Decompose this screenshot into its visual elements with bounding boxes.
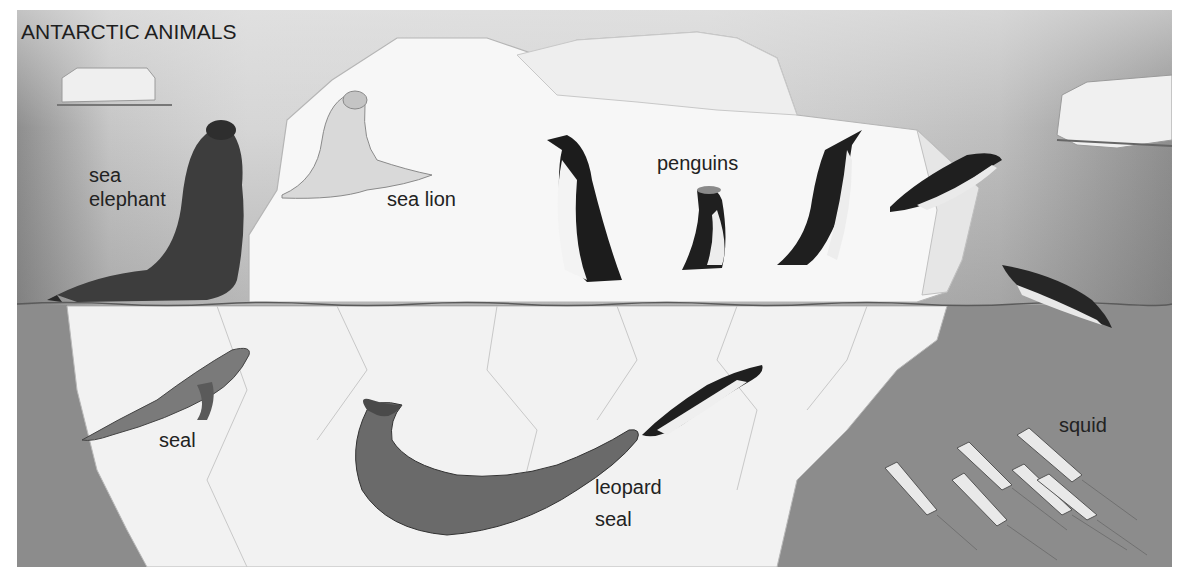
- label-penguins: penguins: [657, 152, 738, 174]
- penguin-swimming: [1002, 265, 1112, 328]
- squid-group: [885, 428, 1097, 526]
- label-seal: seal: [159, 429, 196, 451]
- iceberg-below-water: [67, 306, 947, 567]
- label-sea-lion: sea lion: [387, 188, 456, 210]
- label-squid: squid: [1059, 414, 1107, 436]
- sea-elephant: [47, 120, 244, 302]
- label-sea-elephant-line2: elephant: [89, 188, 166, 210]
- label-leopard-seal-line1: leopard: [595, 476, 662, 498]
- diagram-title: ANTARCTIC ANIMALS: [21, 20, 236, 44]
- antarctic-illustration: ANTARCTIC ANIMALS sea elephant sea lion …: [17, 10, 1172, 567]
- waterline: [17, 303, 1172, 306]
- label-sea-elephant-line1: sea: [89, 164, 121, 186]
- distant-iceberg-right: [1057, 75, 1172, 148]
- label-leopard-seal-line2: seal: [595, 508, 632, 530]
- distant-iceberg-left: [57, 68, 172, 105]
